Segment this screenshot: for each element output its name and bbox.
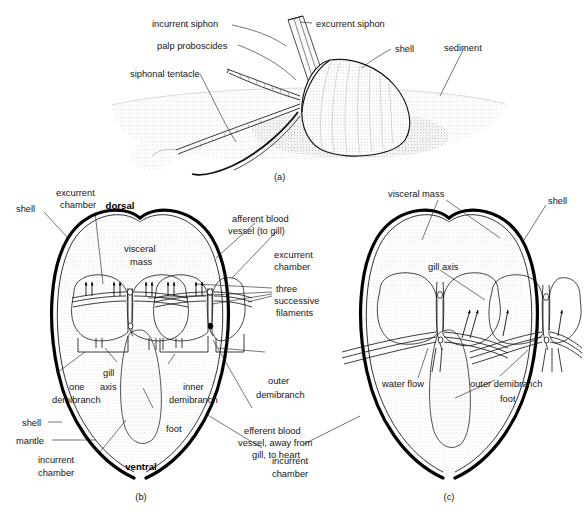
- label-excurrent-chamber-b2: chamber: [60, 200, 96, 210]
- label-outer-2: demibranch: [256, 390, 305, 400]
- label-shell-b-left: shell: [22, 418, 41, 428]
- label-gill-2: axis: [100, 382, 117, 392]
- label-dorsal: dorsal: [106, 200, 135, 211]
- label-gill-1: gill: [103, 368, 114, 378]
- label-shell-a: shell: [395, 44, 414, 54]
- caption-c: (c): [444, 492, 455, 502]
- label-one-demibranch-1: one: [69, 382, 85, 392]
- label-afferent-2: vessel (to gill): [228, 226, 285, 236]
- label-shell-c: shell: [548, 196, 567, 206]
- label-efferent-1: efferent blood: [244, 426, 301, 436]
- label-incurrent-right-2: chamber: [272, 469, 308, 479]
- label-incurrent-left-2: chamber: [38, 468, 74, 478]
- label-excurrent-chamber-r2: chamber: [274, 262, 310, 272]
- label-outer-1: outer: [268, 376, 289, 386]
- caption-b: (b): [135, 492, 146, 502]
- label-gill-axis-c: gill axis: [428, 262, 459, 272]
- label-visceral-mass-b2: mass: [130, 257, 153, 267]
- label-palp-proboscides: palp proboscides: [157, 41, 228, 51]
- label-one-demibranch-2: demibranch: [52, 395, 101, 405]
- label-excurrent-chamber-b1: excurrent: [56, 188, 95, 198]
- label-excurrent-chamber-r1: excurrent: [274, 250, 313, 260]
- label-three-2: successive: [274, 296, 319, 306]
- label-foot-b: foot: [166, 424, 182, 434]
- label-incurrent-left-1: incurrent: [38, 455, 75, 465]
- label-mantle: mantle: [16, 436, 44, 446]
- label-incurrent-right-1: incurrent: [272, 456, 309, 466]
- panel-a: incurrent siphon excurrent siphon palp p…: [112, 16, 505, 182]
- label-outer-demibranch-c: outer demibranch: [470, 379, 542, 389]
- shell-valve: [302, 59, 410, 156]
- label-siphonal-tentacle: siphonal tentacle: [130, 69, 200, 79]
- label-inner-1: inner: [183, 382, 204, 392]
- label-water-flow: water flow: [381, 379, 424, 389]
- label-foot-c: foot: [500, 394, 516, 404]
- label-excurrent-siphon: excurrent siphon: [316, 19, 385, 29]
- label-three-1: three: [276, 284, 297, 294]
- label-afferent-1: afferent blood: [232, 214, 289, 224]
- figure-canvas: incurrent siphon excurrent siphon palp p…: [0, 0, 585, 526]
- label-ventral: ventral: [125, 461, 156, 472]
- figure-svg: incurrent siphon excurrent siphon palp p…: [0, 0, 585, 526]
- label-inner-2: demibranch: [169, 395, 218, 405]
- panel-c: visceral mass shell gill axis water flow…: [342, 189, 582, 502]
- label-three-3: filaments: [276, 308, 314, 318]
- label-visceral-mass-c: visceral mass: [388, 189, 445, 199]
- label-shell-b-top: shell: [16, 204, 35, 214]
- label-visceral-mass-b1: visceral: [124, 244, 156, 254]
- caption-a: (a): [274, 172, 285, 182]
- label-efferent-2: vessel, away from: [238, 438, 313, 448]
- label-incurrent-siphon: incurrent siphon: [152, 19, 218, 29]
- panel-b: dorsal ventral shell excurrent chamber v…: [16, 188, 360, 502]
- label-sediment: sediment: [444, 43, 482, 53]
